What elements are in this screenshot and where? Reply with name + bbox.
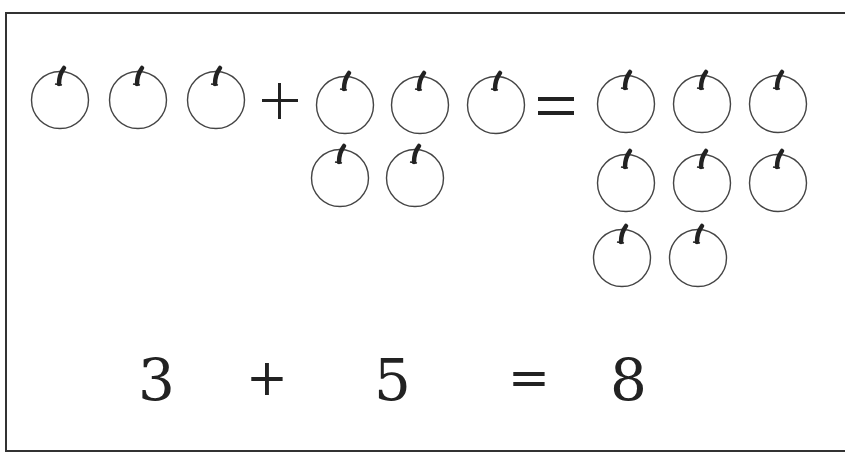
- right-operand: 5: [374, 351, 411, 409]
- apple-icon: [594, 64, 658, 134]
- apple-icon: [670, 64, 734, 134]
- apple-icon: [590, 218, 654, 288]
- equals-sign: =: [508, 353, 550, 403]
- apple-icon: [106, 60, 170, 130]
- apple-icon: [28, 60, 92, 130]
- apple-icon: [594, 143, 658, 213]
- equals-sign-picture: [538, 97, 574, 119]
- apple-icon: [388, 65, 452, 135]
- left-operand: 3: [138, 351, 175, 409]
- apple-icon: [666, 218, 730, 288]
- apple-icon: [746, 143, 810, 213]
- apple-icon: [670, 143, 734, 213]
- plus-sign: +: [246, 353, 288, 403]
- apple-icon: [313, 65, 377, 135]
- result: 8: [610, 351, 647, 409]
- apple-icon: [383, 138, 447, 208]
- apple-icon: [184, 60, 248, 130]
- apple-icon: [464, 65, 528, 135]
- apple-icon: [746, 64, 810, 134]
- plus-sign-picture: [262, 83, 298, 119]
- apple-icon: [308, 138, 372, 208]
